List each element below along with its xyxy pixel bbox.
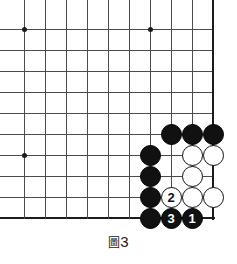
star-point (22, 153, 27, 158)
grid-line-vertical (66, 0, 67, 219)
stone-black (140, 166, 161, 187)
figure-caption-label: 圖 (108, 236, 120, 250)
stone-black (203, 124, 224, 145)
move-number: 2 (167, 190, 174, 203)
go-board[interactable]: 231 (0, 0, 237, 237)
star-point (22, 27, 27, 32)
stone-white (182, 145, 203, 166)
stone-black (140, 208, 161, 229)
grid-line-vertical (87, 0, 88, 219)
stone-white (182, 166, 203, 187)
move-number: 1 (188, 211, 195, 224)
figure-caption: 圖3 (0, 233, 237, 250)
grid-line-vertical (24, 0, 25, 219)
stone-black (140, 145, 161, 166)
grid-line-horizontal (0, 113, 214, 114)
stone-black (182, 124, 203, 145)
stone-white (203, 145, 224, 166)
grid-line-vertical (129, 0, 130, 219)
grid-line-horizontal (0, 71, 214, 72)
grid-line-vertical (45, 0, 46, 219)
go-diagram-figure: 231 圖3 (0, 0, 237, 264)
grid-line-vertical (108, 0, 109, 219)
grid-line-horizontal (0, 50, 214, 51)
grid-line-horizontal (0, 29, 214, 30)
stone-black (140, 187, 161, 208)
figure-caption-number: 3 (120, 233, 128, 250)
stone-black-move-3: 3 (161, 208, 182, 229)
stone-white (203, 187, 224, 208)
grid-line-horizontal (0, 92, 214, 93)
move-number: 3 (167, 211, 174, 224)
stone-black-move-1: 1 (182, 208, 203, 229)
stone-white-move-2: 2 (161, 187, 182, 208)
stone-white (182, 187, 203, 208)
stone-black (161, 124, 182, 145)
star-point (148, 27, 153, 32)
